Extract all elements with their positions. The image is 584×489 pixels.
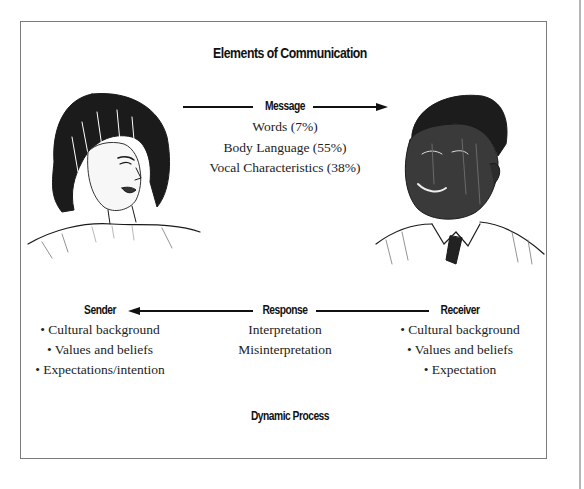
- message-item: Vocal Characteristics (38%): [185, 160, 385, 176]
- sender-item: • Cultural background: [30, 322, 170, 338]
- diagram-title: Elements of Communication: [175, 44, 405, 61]
- woman-sketch-icon: [22, 82, 202, 262]
- message-arrowhead-icon: [376, 103, 388, 111]
- receiver-item: • Expectation: [390, 362, 530, 378]
- receiver-item: • Cultural background: [390, 322, 530, 338]
- page-edge-rule: [579, 0, 581, 489]
- response-item: Interpretation: [215, 322, 355, 338]
- message-line-left: [183, 106, 253, 108]
- message-line-right: [313, 106, 377, 108]
- sender-item: • Expectations/intention: [30, 362, 170, 378]
- receiver-label: Receiver: [437, 303, 483, 317]
- response-line-left: [139, 310, 253, 312]
- response-item: Misinterpretation: [215, 342, 355, 358]
- message-item: Body Language (55%): [185, 140, 385, 156]
- message-label: Message: [256, 99, 313, 113]
- sender-item: • Values and beliefs: [30, 342, 170, 358]
- message-item: Words (7%): [185, 119, 385, 135]
- response-label: Response: [256, 303, 313, 317]
- response-line-right: [316, 310, 429, 312]
- receiver-item: • Values and beliefs: [390, 342, 530, 358]
- dynamic-process-label: Dynamic Process: [224, 409, 355, 423]
- man-sketch-icon: [372, 84, 548, 268]
- sender-label: Sender: [77, 303, 123, 317]
